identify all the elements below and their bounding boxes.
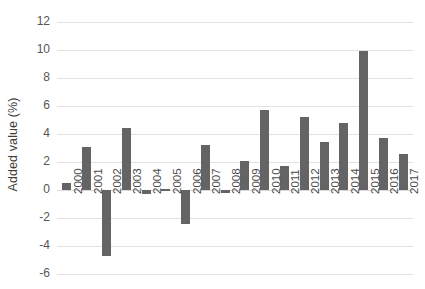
x-tick-label-2013: 2013 bbox=[329, 168, 341, 194]
x-tick-label-2002: 2002 bbox=[111, 168, 123, 194]
bar-2006 bbox=[181, 190, 190, 224]
y-tick-label: 2 bbox=[0, 154, 50, 168]
x-tick-label-2017: 2017 bbox=[408, 168, 420, 194]
x-tick-label-2014: 2014 bbox=[349, 168, 361, 194]
x-tick-label-2005: 2005 bbox=[171, 168, 183, 194]
x-tick-label-2016: 2016 bbox=[388, 168, 400, 194]
bar-2002 bbox=[102, 190, 111, 256]
gridline--6 bbox=[57, 274, 413, 275]
y-tick-label: 10 bbox=[0, 42, 50, 56]
bar-2003 bbox=[122, 128, 131, 190]
x-tick-label-2003: 2003 bbox=[131, 168, 143, 194]
y-tick-label: -2 bbox=[0, 210, 50, 224]
bar-chart: Added value (%) 121086420-2-4-6 20002001… bbox=[0, 0, 425, 289]
y-tick-label: 8 bbox=[0, 70, 50, 84]
x-tick-label-2008: 2008 bbox=[230, 168, 242, 194]
x-tick-label-2011: 2011 bbox=[289, 169, 301, 194]
y-tick-label: 0 bbox=[0, 182, 50, 196]
x-tick-label-2012: 2012 bbox=[309, 168, 321, 194]
y-tick-label: 4 bbox=[0, 126, 50, 140]
y-tick-label: 12 bbox=[0, 14, 50, 28]
bar-2000 bbox=[62, 183, 71, 190]
gridline-12 bbox=[57, 22, 413, 23]
x-tick-label-2006: 2006 bbox=[191, 168, 203, 194]
x-tick-label-2007: 2007 bbox=[210, 168, 222, 194]
plot-area: 2000200120022003200420052006200720082009… bbox=[57, 22, 413, 274]
x-tick-label-2009: 2009 bbox=[250, 168, 262, 194]
x-tick-label-2001: 2001 bbox=[92, 168, 104, 194]
y-tick-label: -4 bbox=[0, 238, 50, 252]
x-tick-label-2000: 2000 bbox=[72, 168, 84, 194]
y-tick-label: 6 bbox=[0, 98, 50, 112]
y-tick-label: -6 bbox=[0, 266, 50, 280]
x-tick-label-2010: 2010 bbox=[270, 168, 282, 194]
bar-2012 bbox=[300, 117, 309, 190]
x-tick-label-2015: 2015 bbox=[369, 168, 381, 194]
x-tick-label-2004: 2004 bbox=[151, 168, 163, 194]
